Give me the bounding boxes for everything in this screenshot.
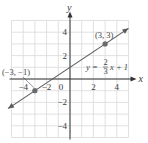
x-tick-label: 2 — [91, 82, 96, 92]
x-tick-label: −4 — [18, 82, 28, 92]
line-arrow-end-icon — [122, 28, 128, 33]
data-point — [103, 41, 108, 46]
data-point — [32, 88, 37, 93]
coordinate-plane: x y −4−202442−2−4 (−3, −1)(3, 3) y = 2 3… — [0, 0, 148, 143]
y-tick-label: 4 — [63, 27, 68, 37]
point-label: (−3, −1) — [2, 67, 30, 77]
equation-label: y = 2 3 x + 1 — [85, 57, 128, 76]
point-label: (3, 3) — [95, 30, 114, 40]
equation-prefix: y = — [85, 62, 98, 72]
x-tick-label: 0 — [59, 82, 64, 92]
y-axis-label: y — [66, 2, 72, 13]
equation-suffix: x + 1 — [109, 62, 128, 72]
y-tick-label: −2 — [57, 97, 67, 107]
x-tick-label: 4 — [115, 82, 120, 92]
y-tick-label: 2 — [63, 51, 68, 61]
line-arrow-start-icon — [8, 103, 14, 108]
x-axis-arrow-icon — [131, 77, 137, 82]
y-tick-label: −4 — [57, 121, 67, 131]
x-axis-label: x — [138, 73, 144, 84]
equation-denominator: 3 — [103, 66, 107, 76]
